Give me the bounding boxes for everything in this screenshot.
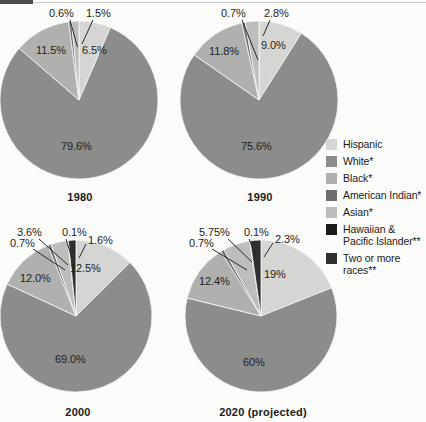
pie-2000-label-black: 12.0%: [20, 272, 51, 284]
legend-item-5[interactable]: Hawaiian &Pacific Islander**: [326, 223, 426, 247]
pie-2000-label-hawaiian: 0.1%: [62, 226, 87, 238]
legend-label-3: American Indian*: [343, 189, 421, 201]
pie-1990-label-asian: 2.8%: [264, 7, 289, 19]
legend-swatch-icon-0: [326, 139, 337, 150]
pie-1990-label-white: 75.6%: [241, 140, 272, 152]
legend-label-6: Two or moreraces**: [343, 252, 400, 276]
legend-item-3[interactable]: American Indian*: [326, 189, 426, 202]
pie-1990-leader-lines: [180, 0, 350, 210]
legend-swatch-icon-1: [326, 156, 337, 167]
legend-label-5: Hawaiian &Pacific Islander**: [343, 223, 421, 247]
pie-2020-label-two-or-more: 2.3%: [275, 233, 300, 245]
pie-2020-year: 2020 (projected): [185, 406, 341, 418]
legend-swatch-icon-4: [326, 207, 337, 218]
legend-item-0[interactable]: Hispanic: [326, 138, 426, 151]
pie-2000-label-hispanic: 12.5%: [70, 262, 101, 274]
pie-1980-label-hispanic: 6.5%: [82, 44, 107, 56]
pie-1990-label-hispanic: 9.0%: [261, 39, 286, 51]
pie-2020-label-american-indian: 0.7%: [189, 237, 214, 249]
pie-1980-label-asian: 1.5%: [86, 7, 111, 19]
pie-2020-label-white: 60%: [243, 356, 265, 368]
pie-1980-label-black: 11.5%: [36, 44, 66, 56]
pie-1980-leader-lines: [0, 0, 170, 210]
pie-1990-label-black: 11.8%: [209, 45, 239, 57]
legend-item-1[interactable]: White*: [326, 155, 426, 168]
pie-1990-label-american-indian: 0.7%: [221, 7, 246, 19]
pie-2000-label-two-or-more: 1.6%: [88, 234, 113, 246]
pie-2000-label-white: 69.0%: [55, 353, 86, 365]
legend-item-6[interactable]: Two or moreraces**: [326, 252, 426, 276]
legend-item-2[interactable]: Black*: [326, 172, 426, 185]
pie-chart-figure: 0.6% 1.5% 11.5% 6.5% 79.6% 1980 0.7% 2.8…: [0, 0, 426, 422]
pie-chart-2000: 3.6% 0.1% 0.7% 1.6% 12.0% 12.5% 69.0% 20…: [0, 212, 170, 422]
pie-chart-1990: 0.7% 2.8% 11.8% 9.0% 75.6% 1990: [180, 0, 350, 210]
pie-1980-label-american-indian: 0.6%: [49, 7, 74, 19]
legend-label-2: Black*: [343, 172, 372, 184]
pie-2000-year: 2000: [0, 406, 156, 418]
legend-swatch-icon-2: [326, 173, 337, 184]
legend: HispanicWhite*Black*American Indian*Asia…: [326, 138, 426, 281]
pie-2000-label-american-indian: 0.7%: [10, 237, 35, 249]
legend-swatch-icon-6: [326, 253, 337, 264]
pie-2020-label-black: 12.4%: [199, 275, 230, 287]
pie-2020-label-hispanic: 19%: [264, 268, 286, 280]
legend-item-4[interactable]: Asian*: [326, 206, 426, 219]
pie-1980-label-white: 79.6%: [61, 140, 92, 152]
pie-2020-label-hawaiian: 0.1%: [244, 226, 269, 238]
legend-label-4: Asian*: [343, 206, 373, 218]
pie-1980-year: 1980: [0, 191, 160, 203]
legend-swatch-icon-5: [326, 224, 337, 235]
pie-1990-year: 1990: [180, 191, 340, 203]
legend-label-1: White*: [343, 155, 373, 167]
legend-label-0: Hispanic: [343, 138, 382, 150]
legend-swatch-icon-3: [326, 190, 337, 201]
pie-chart-1980: 0.6% 1.5% 11.5% 6.5% 79.6% 1980: [0, 0, 170, 210]
